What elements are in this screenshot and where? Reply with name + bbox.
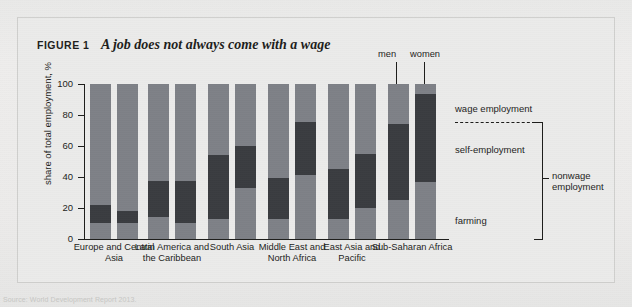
callout-line-men [396,62,397,84]
nonwage-line-1: nonwage [552,170,604,181]
y-tick-60 [78,146,84,147]
segment-self-employment [235,146,256,188]
source-note: Source: World Development Report 2013. [3,296,137,303]
bar-latin-america-men[interactable] [148,84,169,240]
bar-europe-central-asia-women[interactable] [117,84,138,240]
chart-plot-area: 100 80 60 40 20 0 share of total employm… [18,18,616,284]
legend-label-farming: farming [455,215,487,226]
segment-self-employment [328,169,349,219]
bar-europe-central-asia-men[interactable] [90,84,111,240]
y-axis-label: share of total employment, % [42,49,53,199]
bar-middle-east-north-africa-women[interactable] [295,84,316,240]
y-tick-40 [78,177,84,178]
bar-south-asia-women[interactable] [235,84,256,240]
callout-label-women: women [410,49,440,59]
x-axis-label-sub-saharan-africa: Sub-Saharan Africa [370,242,454,253]
bar-east-asia-pacific-women[interactable] [355,84,376,240]
legend-label-self-employment: self-employment [455,144,525,155]
callout-line-women [424,62,425,84]
segment-self-employment [148,181,169,217]
bar-latin-america-women[interactable] [175,84,196,240]
wage-nonwage-divider [455,122,535,123]
bar-sub-saharan-africa-men[interactable] [388,84,409,240]
segment-self-employment [117,211,138,223]
legend-label-wage-employment: wage employment [455,103,532,114]
page-background: FIGURE 1 A job does not always come with… [0,0,632,307]
segment-self-employment [355,154,376,208]
nonwage-bracket-nib [542,178,549,179]
callout-label-men: men [378,49,396,59]
segment-self-employment [295,122,316,175]
x-axis-line [84,239,449,240]
bar-sub-saharan-africa-women[interactable] [415,84,436,240]
y-tick-label-20: 20 [47,203,73,212]
y-tick-100 [78,84,84,85]
bar-south-asia-men[interactable] [208,84,229,240]
y-axis-line [84,84,85,240]
bar-middle-east-north-africa-men[interactable] [268,84,289,240]
y-tick-20 [78,208,84,209]
y-tick-80 [78,115,84,116]
segment-self-employment [388,124,409,200]
nonwage-bracket [534,122,543,240]
nonwage-line-2: employment [552,181,604,192]
bar-east-asia-pacific-men[interactable] [328,84,349,240]
y-tick-label-0: 0 [47,234,73,243]
segment-self-employment [90,205,111,224]
y-tick-0 [78,239,84,240]
figure-panel: FIGURE 1 A job does not always come with… [17,17,615,283]
segment-self-employment [268,178,289,218]
segment-self-employment [415,94,436,181]
segment-self-employment [208,155,229,219]
legend-label-nonwage-employment: nonwage employment [552,170,604,192]
y-axis-label-text: share of total employment, % [42,62,53,185]
segment-self-employment [175,181,196,223]
